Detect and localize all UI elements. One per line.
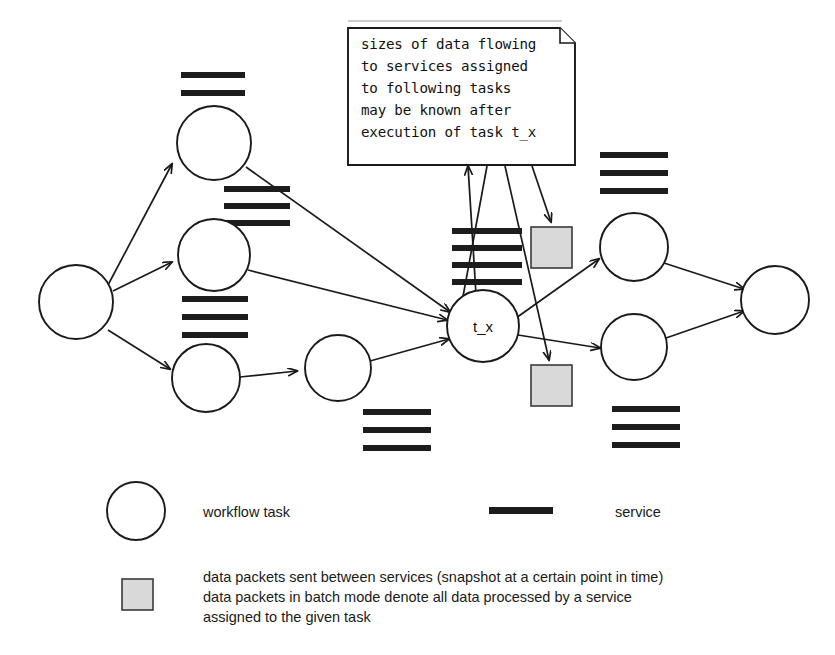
note-line-3: to following tasks bbox=[361, 80, 511, 96]
task-node-start bbox=[39, 265, 113, 339]
edge-task-bottom2-to-tx bbox=[370, 339, 449, 361]
service-group-task-top-output bbox=[224, 186, 290, 226]
edge-task-mid-to-tx bbox=[248, 270, 447, 320]
service-group-above-tx bbox=[452, 228, 522, 285]
task-node-mid bbox=[178, 219, 250, 291]
task-node-bottom bbox=[172, 344, 240, 412]
legend-data-packet-line-2: data packets in batch mode denote all da… bbox=[203, 589, 632, 605]
note-line-2: to services assigned bbox=[361, 58, 528, 74]
edge-start-to-task-mid bbox=[113, 262, 172, 291]
task-node-top bbox=[177, 106, 251, 180]
data-packet-upper bbox=[531, 227, 572, 268]
legend-data-packet-icon bbox=[122, 579, 153, 610]
legend-data-packet-line-1: data packets sent between services (snap… bbox=[203, 569, 663, 585]
diagram-root: t_x sizes of data flowing to services as… bbox=[0, 0, 835, 655]
note-line-4: may be known after bbox=[361, 102, 511, 118]
legend: workflow task service data packets sent … bbox=[107, 482, 663, 625]
legend-service-label: service bbox=[615, 504, 661, 520]
task-node-end bbox=[741, 266, 809, 334]
service-group-right-top bbox=[600, 152, 668, 194]
edge-start-to-task-bottom bbox=[108, 330, 170, 369]
note-line-1: sizes of data flowing bbox=[361, 36, 536, 52]
legend-service-icon bbox=[489, 507, 553, 514]
service-group-task-mid-below bbox=[182, 296, 248, 338]
task-node-right-bottom bbox=[601, 314, 667, 380]
data-packet-lower bbox=[531, 365, 572, 406]
service-group-bottom-center bbox=[363, 409, 431, 451]
edge-task-right-top-to-end bbox=[664, 263, 744, 289]
service-group-top-left bbox=[181, 72, 245, 96]
task-node-right-top bbox=[600, 213, 668, 281]
legend-workflow-task-label: workflow task bbox=[202, 504, 291, 520]
service-group-right-bottom bbox=[612, 406, 680, 448]
workflow-services-diagram: t_x sizes of data flowing to services as… bbox=[0, 0, 835, 655]
legend-data-packet-line-3: assigned to the given task bbox=[203, 609, 371, 625]
edge-task-right-bottom-to-end bbox=[666, 311, 744, 338]
note-line-5: execution of task t_x bbox=[361, 124, 537, 141]
task-node-tx-label: t_x bbox=[473, 318, 494, 335]
note-callout: sizes of data flowing to services assign… bbox=[348, 28, 575, 165]
edge-tx-to-task-right-bottom bbox=[518, 335, 600, 348]
note-to-upper-packet-connector bbox=[532, 166, 551, 222]
task-node-bottom2 bbox=[305, 335, 371, 401]
legend-workflow-task-icon bbox=[107, 482, 165, 540]
edge-task-bottom-to-task-bottom2 bbox=[240, 371, 297, 377]
